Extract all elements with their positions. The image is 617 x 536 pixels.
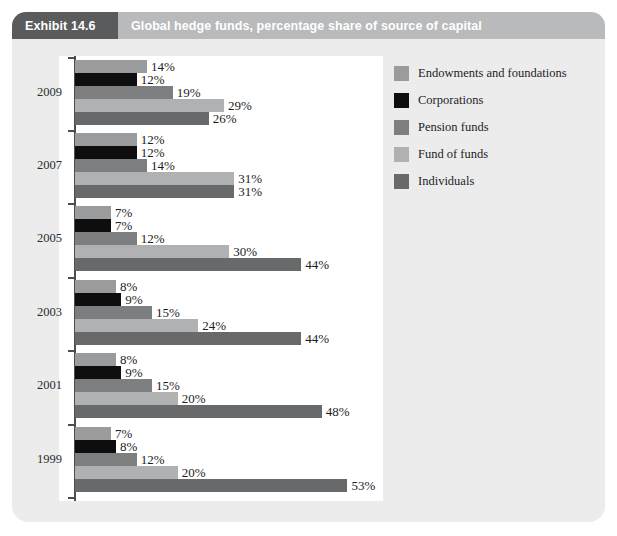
legend-swatch-icon	[394, 66, 409, 81]
legend-item-label: Corporations	[418, 93, 483, 108]
chart-legend: Endowments and foundationsCorporationsPe…	[394, 61, 604, 196]
legend-item: Fund of funds	[394, 142, 604, 166]
legend-item: Individuals	[394, 169, 604, 193]
legend-item: Endowments and foundations	[394, 61, 604, 85]
legend-swatch-icon	[394, 174, 409, 189]
legend-item: Corporations	[394, 88, 604, 112]
legend-item-label: Individuals	[418, 174, 474, 189]
legend-swatch-icon	[394, 93, 409, 108]
legend-item-label: Pension funds	[418, 120, 489, 135]
exhibit-figure: Exhibit 14.6 Global hedge funds, percent…	[0, 0, 617, 536]
legend-item-label: Fund of funds	[418, 147, 488, 162]
legend-swatch-icon	[394, 147, 409, 162]
legend-swatch-icon	[394, 120, 409, 135]
value-axis	[74, 56, 76, 501]
exhibit-titlebar: Exhibit 14.6 Global hedge funds, percent…	[12, 12, 605, 39]
exhibit-number: Exhibit 14.6	[12, 12, 118, 39]
legend-item-label: Endowments and foundations	[418, 66, 567, 81]
plot-area	[59, 56, 383, 501]
exhibit-title: Global hedge funds, percentage share of …	[118, 12, 605, 39]
legend-item: Pension funds	[394, 115, 604, 139]
